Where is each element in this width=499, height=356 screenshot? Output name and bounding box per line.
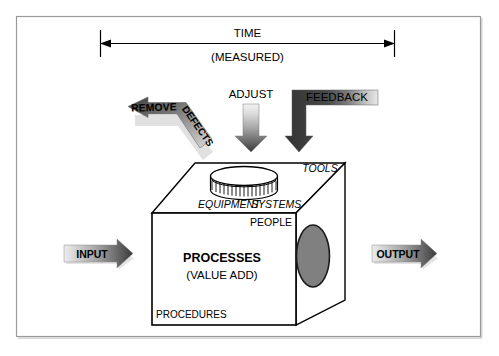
time-measured-label: (MEASURED) <box>211 51 284 63</box>
adjust-label: ADJUST <box>229 88 274 100</box>
value-add-subtitle: (VALUE ADD) <box>186 269 258 281</box>
feedback-label: FEEDBACK <box>306 91 368 103</box>
time-label: TIME <box>234 27 262 39</box>
dial-top-rim <box>211 167 278 186</box>
processes-title: PROCESSES <box>183 251 261 265</box>
process-cube[interactable]: TOOLS EQUIPMENT SYSTEMS PEOPLE PROCEDURE… <box>152 162 345 325</box>
control-dial-icon[interactable] <box>210 167 277 200</box>
output-label: OUTPUT <box>376 248 420 260</box>
cube-label-systems: SYSTEMS <box>251 198 301 210</box>
diagram-canvas: TIME (MEASURED) REMOVE DEFECTS ADJUST FE… <box>0 0 499 356</box>
cube-label-tools: TOOLS <box>302 162 337 174</box>
cube-label-people: PEOPLE <box>250 216 292 228</box>
remove-label: REMOVE <box>131 100 177 113</box>
process-model-diagram: TIME (MEASURED) REMOVE DEFECTS ADJUST FE… <box>0 0 499 356</box>
input-label: INPUT <box>76 248 108 260</box>
cube-label-procedures: PROCEDURES <box>156 309 227 320</box>
side-port-ellipse[interactable] <box>297 225 330 287</box>
